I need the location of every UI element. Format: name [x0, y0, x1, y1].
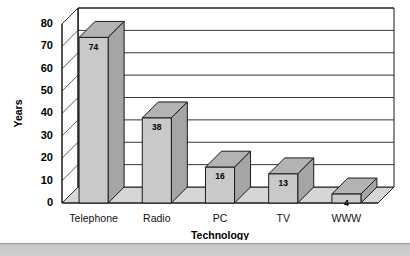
y-axis-tick-label-30: 30 [41, 129, 53, 141]
y-axis-tick-label-20: 20 [41, 151, 53, 163]
bar-front-face-telephone [79, 37, 108, 203]
y-axis-tick-label-70: 70 [41, 39, 53, 51]
y-axis-tick-label-40: 40 [41, 106, 53, 118]
x-axis-tick-label-tv: TV [276, 212, 289, 224]
x-axis-tick-label-www: WWW [332, 212, 362, 224]
y-axis-tick-label-0: 0 [47, 196, 53, 208]
x-axis-tick-label-telephone: Telephone [69, 212, 118, 224]
bar-value-label-pc: 16 [215, 171, 225, 181]
x-axis-title: Technology [191, 229, 249, 240]
x-axis-tick-label-pc: PC [213, 212, 228, 224]
y-axis-tick-label-80: 80 [41, 17, 53, 29]
y-axis-tick-label-50: 50 [41, 84, 53, 96]
y-axis-title: Years [12, 99, 24, 127]
y-axis-tick-label-60: 60 [41, 62, 53, 74]
bar-chart-figure: 0102030405060708074Telephone38Radio16PC1… [0, 0, 410, 256]
bar-radio[interactable]: 38 [142, 102, 187, 203]
bar-side-face-radio [171, 102, 187, 203]
bar-side-face-telephone [108, 21, 124, 203]
bar-value-label-www: 4 [344, 198, 349, 208]
bar-value-label-radio: 38 [152, 122, 162, 132]
page-footer-band [0, 243, 410, 256]
bar-value-label-telephone: 74 [89, 42, 99, 52]
x-axis-tick-label-radio: Radio [143, 212, 171, 224]
bar-value-label-tv: 13 [278, 178, 288, 188]
bar-telephone[interactable]: 74 [79, 21, 124, 203]
y-axis-tick-label-10: 10 [41, 174, 53, 186]
chart-canvas: 0102030405060708074Telephone38Radio16PC1… [0, 0, 410, 240]
